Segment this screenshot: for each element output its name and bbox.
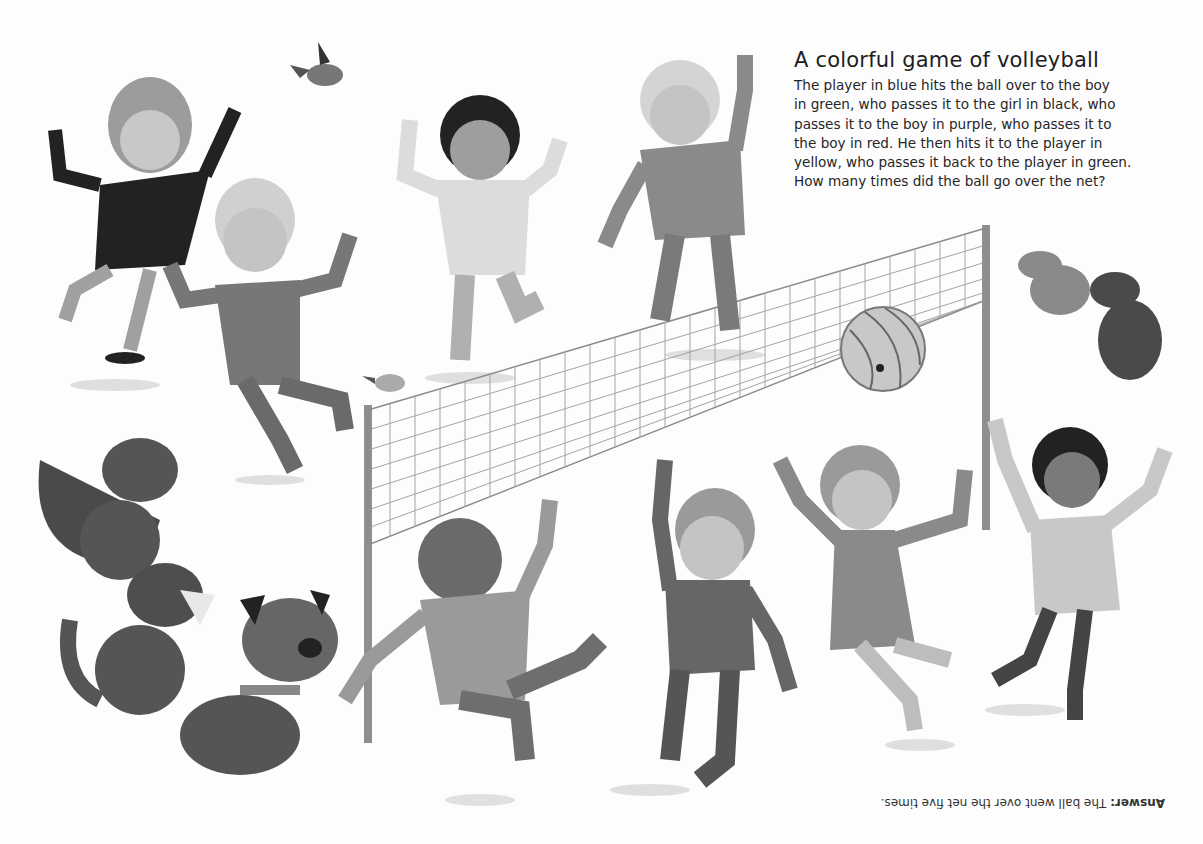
dogs-top-right (1018, 251, 1162, 380)
bird-on-net (362, 374, 405, 392)
puzzle-title: A colorful game of volleyball (794, 48, 1184, 72)
answer-text: The ball went over the net five times. (881, 796, 1110, 810)
girl-in-pink (780, 445, 965, 730)
fox (39, 438, 178, 580)
puzzle-line: the boy in red. He then hits it to the p… (794, 135, 1102, 151)
upside-down-answer: Answer: The ball went over the net five … (920, 796, 1165, 810)
puzzle-line: The player in blue hits the ball over to… (794, 77, 1110, 93)
spaniel (68, 563, 215, 715)
puzzle-line: passes it to the boy in purple, who pass… (794, 116, 1112, 132)
bulldog (180, 590, 338, 775)
boy-in-purple (170, 178, 350, 470)
player-in-blue (405, 95, 560, 360)
puzzle-text-block: A colorful game of volleyball The player… (794, 48, 1184, 192)
puzzle-line: in green, who passes it to the girl in b… (794, 96, 1115, 112)
answer-label: Answer: (1110, 796, 1165, 810)
bird-flying (290, 42, 343, 86)
player-in-yellow (660, 460, 790, 780)
puzzle-question: The player in blue hits the ball over to… (794, 76, 1184, 192)
boy-in-green (605, 55, 745, 330)
puzzle-line: How many times did the ball go over the … (794, 173, 1106, 189)
girl-in-black (55, 77, 235, 364)
puzzle-page: A colorful game of volleyball The player… (0, 0, 1203, 844)
puzzle-line: yellow, who passes it back to the player… (794, 154, 1131, 170)
volleyball (841, 307, 925, 391)
player-in-white (995, 420, 1165, 720)
